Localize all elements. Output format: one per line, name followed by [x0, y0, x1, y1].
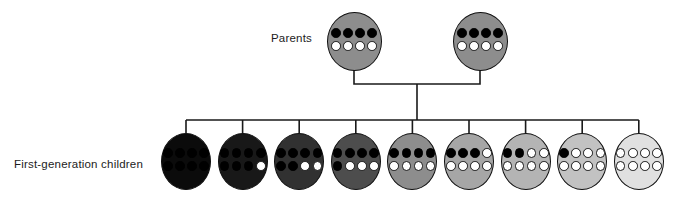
first-generation-children-label: First-generation children [14, 158, 143, 170]
allele-row-bottom [559, 161, 605, 171]
light-allele-dot [571, 148, 581, 158]
light-allele-dot [457, 41, 467, 51]
light-allele-dot [628, 161, 638, 171]
light-allele-dot [583, 148, 593, 158]
light-allele-dot [300, 161, 310, 171]
parent-1-circle [327, 12, 382, 71]
dark-allele-dot [220, 148, 230, 158]
dark-allele-dot [515, 148, 525, 158]
dark-allele-dot [481, 28, 491, 38]
light-allele-dot [583, 161, 593, 171]
child-7-circle [501, 133, 551, 190]
light-allele-dot [493, 41, 503, 51]
dark-allele-dot [220, 161, 230, 171]
dark-allele-dot [232, 161, 242, 171]
child-5-circle [387, 133, 437, 190]
allele-row-top [559, 148, 605, 158]
dark-allele-dot [175, 161, 185, 171]
light-allele-dot [640, 161, 650, 171]
allele-row-bottom [446, 161, 492, 171]
parent-2-circle [453, 12, 508, 71]
allele-row-top [616, 148, 662, 158]
light-allele-dot [539, 148, 549, 158]
light-allele-dot [628, 148, 638, 158]
dark-allele-dot [199, 148, 209, 158]
dark-allele-dot [503, 148, 513, 158]
light-allele-dot [527, 148, 537, 158]
light-allele-dot [559, 161, 569, 171]
light-allele-dot [515, 161, 525, 171]
allele-row-bottom [331, 41, 377, 51]
dark-allele-dot [333, 148, 343, 158]
light-allele-dot [357, 161, 367, 171]
dark-allele-dot [244, 148, 254, 158]
allele-row-bottom [457, 41, 503, 51]
dark-allele-dot [187, 161, 197, 171]
light-allele-dot [616, 148, 626, 158]
allele-row-top [276, 148, 322, 158]
dark-allele-dot [199, 161, 209, 171]
child-8-circle [557, 133, 607, 190]
allele-row-bottom [503, 161, 549, 171]
light-allele-dot [481, 41, 491, 51]
child-1-circle [161, 133, 211, 190]
dark-allele-dot [343, 28, 353, 38]
child-2-circle [218, 133, 268, 190]
dark-allele-dot [458, 148, 468, 158]
dark-allele-dot [300, 148, 310, 158]
light-allele-dot [313, 161, 323, 171]
allele-row-top [389, 148, 435, 158]
light-allele-dot [652, 161, 662, 171]
child-3-circle [274, 133, 324, 190]
light-allele-dot [616, 161, 626, 171]
allele-row-top [503, 148, 549, 158]
dark-allele-dot [446, 148, 456, 158]
allele-row-bottom [276, 161, 322, 171]
light-allele-dot [527, 161, 537, 171]
light-allele-dot [345, 161, 355, 171]
allele-row-top [446, 148, 492, 158]
dark-allele-dot [493, 28, 503, 38]
light-allele-dot [539, 161, 549, 171]
light-allele-dot [469, 41, 479, 51]
dark-allele-dot [357, 148, 367, 158]
light-allele-dot [482, 161, 492, 171]
dark-allele-dot [276, 148, 286, 158]
dark-allele-dot [414, 148, 424, 158]
dark-allele-dot [389, 148, 399, 158]
dark-allele-dot [163, 148, 173, 158]
allele-row-bottom [163, 161, 209, 171]
light-allele-dot [503, 161, 513, 171]
dark-allele-dot [345, 148, 355, 158]
allele-row-bottom [220, 161, 266, 171]
light-allele-dot [470, 161, 480, 171]
child-6-circle [444, 133, 494, 190]
polygenic-inheritance-diagram: Parents First-generation children [0, 0, 685, 203]
light-allele-dot [482, 148, 492, 158]
allele-row-top [457, 28, 503, 38]
light-allele-dot [640, 148, 650, 158]
dark-allele-dot [457, 28, 467, 38]
dark-allele-dot [367, 28, 377, 38]
dark-allele-dot [402, 148, 412, 158]
dark-allele-dot [244, 161, 254, 171]
allele-row-bottom [389, 161, 435, 171]
dark-allele-dot [559, 148, 569, 158]
allele-row-bottom [616, 161, 662, 171]
dark-allele-dot [369, 148, 379, 158]
allele-row-bottom [333, 161, 379, 171]
allele-row-top [331, 28, 377, 38]
child-9-circle [614, 133, 664, 190]
light-allele-dot [596, 161, 606, 171]
light-allele-dot [367, 41, 377, 51]
dark-allele-dot [333, 161, 343, 171]
dark-allele-dot [175, 148, 185, 158]
dark-allele-dot [313, 148, 323, 158]
dark-allele-dot [163, 161, 173, 171]
dark-allele-dot [187, 148, 197, 158]
light-allele-dot [458, 161, 468, 171]
light-allele-dot [414, 161, 424, 171]
light-allele-dot [343, 41, 353, 51]
light-allele-dot [446, 161, 456, 171]
dark-allele-dot [426, 148, 436, 158]
